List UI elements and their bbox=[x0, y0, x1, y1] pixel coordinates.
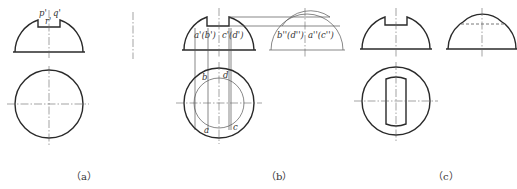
label-c: c bbox=[233, 122, 238, 132]
figure-c: （c） bbox=[354, 8, 517, 182]
hemisphere-slot-projection-diagram: p' q' r' （a） a'(b') c'(d') bbox=[0, 0, 517, 189]
figure-b: a'(b') c'(d') b''(d'') a''(c'') b d a c bbox=[176, 8, 345, 182]
label-c-prime-d-prime: c'(d') bbox=[222, 30, 244, 40]
label-b: b bbox=[202, 72, 207, 82]
figure-b-side-view: b''(d'') a''(c'') bbox=[269, 8, 345, 58]
caption-a: （a） bbox=[71, 171, 97, 182]
cut-curve bbox=[282, 11, 330, 26]
top-cap-arc bbox=[460, 14, 505, 24]
caption-c: （c） bbox=[433, 171, 459, 182]
figure-a: p' q' r' （a） bbox=[7, 8, 133, 182]
label-a: a bbox=[204, 125, 209, 135]
label-r-prime: r' bbox=[45, 16, 51, 26]
figure-c-side-view bbox=[446, 8, 517, 57]
label-b-dprime-d-dprime: b''(d'') bbox=[277, 30, 304, 40]
figure-a-front-view: p' q' r' bbox=[13, 8, 85, 58]
label-a-dprime-c-dprime: a''(c'') bbox=[308, 30, 334, 40]
figure-b-front-view: a'(b') c'(d') bbox=[182, 8, 256, 58]
figure-c-front-view bbox=[360, 8, 432, 57]
lower-left-arc bbox=[448, 24, 460, 49]
caption-b: （b） bbox=[266, 171, 292, 182]
lower-right-arc bbox=[505, 24, 516, 49]
label-q-prime: q' bbox=[53, 8, 61, 18]
figure-b-top-view: b d a c bbox=[176, 62, 262, 144]
figure-c-top-view bbox=[354, 62, 438, 142]
figure-a-top-view bbox=[7, 66, 89, 145]
label-a-prime-b-prime: a'(b') bbox=[194, 30, 216, 40]
label-d: d bbox=[223, 70, 229, 80]
